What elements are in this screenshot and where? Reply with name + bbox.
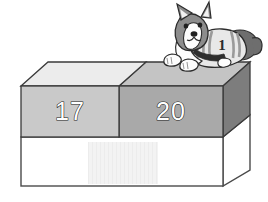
dog-hind-foot xyxy=(218,58,231,67)
right-block-number: 20 xyxy=(156,97,186,125)
right-block: 20 xyxy=(119,62,250,137)
dog-nose xyxy=(191,31,198,37)
dog-eye-left xyxy=(184,23,189,28)
dog-paw-right xyxy=(180,59,198,71)
corgi-dog: 1 xyxy=(164,2,262,71)
left-block-number: 17 xyxy=(55,97,85,125)
dog-jersey-number: 1 xyxy=(218,37,226,53)
dog-paw-left xyxy=(164,54,181,66)
base-block-texture-patch xyxy=(88,142,158,184)
illustration-scene: 20 17 xyxy=(0,0,268,202)
blocks-and-dog-illustration: 20 17 xyxy=(0,0,268,202)
dog-eye-right xyxy=(198,22,203,27)
